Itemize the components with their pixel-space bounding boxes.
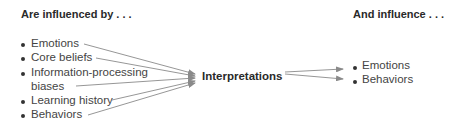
arrow-behaviors-to-interpretations bbox=[88, 83, 195, 115]
arrows-layer bbox=[0, 0, 459, 126]
arrow-learning-history-to-interpretations bbox=[112, 81, 195, 100]
arrow-interpretations-to-emotions bbox=[285, 69, 343, 72]
arrow-interpretations-to-behaviors bbox=[285, 74, 343, 79]
